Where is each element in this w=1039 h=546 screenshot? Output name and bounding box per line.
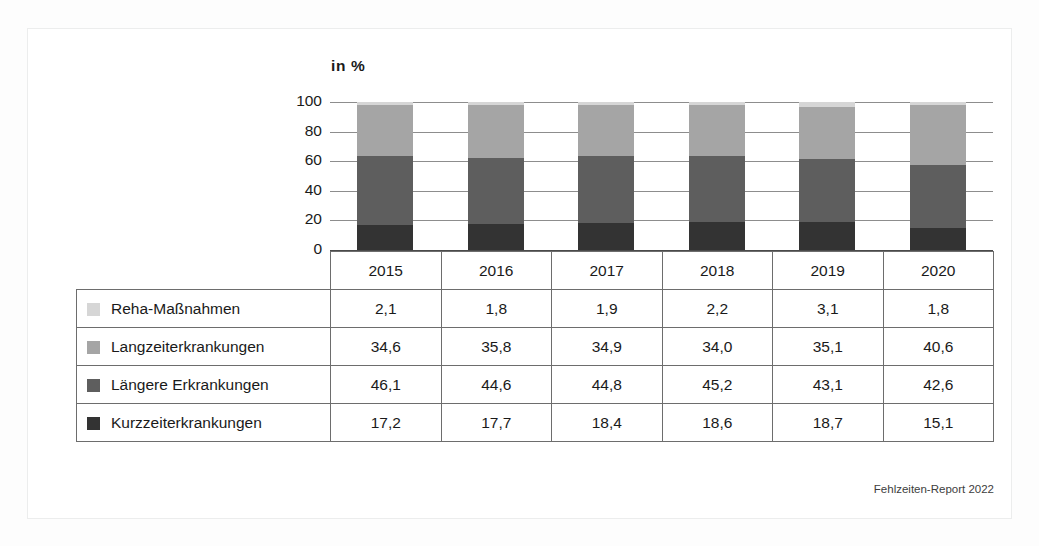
table-cell-kurzzeit-2016: 17,7 [441,404,552,442]
table-cell-langzeit-2017: 34,9 [552,328,663,366]
table-cell-laengere-2019: 43,1 [773,366,884,404]
legend-swatch-kurzzeit-icon [87,417,100,430]
gridline-100 [330,102,993,103]
legend-label-text: Längere Erkrankungen [111,376,269,393]
plot-area [330,102,993,250]
bar-segment-kurzzeit-2015 [357,225,413,250]
table-row: Langzeiterkrankungen34,635,834,934,035,1… [77,328,994,366]
table-column-header-2015: 2015 [331,252,442,290]
axis-unit-label: in % [331,57,365,75]
legend-label-text: Reha-Maßnahmen [111,300,240,317]
bar-segment-kurzzeit-2018 [689,222,745,250]
table-cell-reha-2015: 2,1 [331,290,442,328]
gridline-80 [330,132,993,133]
bar-segment-langzeit-2015 [357,105,413,156]
bar-2017 [578,102,634,250]
bar-2016 [468,102,524,250]
bar-segment-laengere-2016 [468,158,524,224]
bar-segment-laengere-2017 [578,156,634,222]
table-row: Kurzzeiterkrankungen17,217,718,418,618,7… [77,404,994,442]
figure-container: in % 100806040200 2015201620172018201920… [0,0,1039,546]
legend-swatch-reha-icon [87,303,100,316]
table-row: Reha-Maßnahmen2,11,81,92,23,11,8 [77,290,994,328]
table-cell-reha-2020: 1,8 [883,290,994,328]
table-column-header-2019: 2019 [773,252,884,290]
table-column-header-2017: 2017 [552,252,663,290]
y-tick-label-80: 80 [270,122,322,140]
y-tick-label-60: 60 [270,151,322,169]
table-cell-langzeit-2015: 34,6 [331,328,442,366]
bar-2019 [799,102,855,250]
gridline-60 [330,161,993,162]
y-tick-label-20: 20 [270,210,322,228]
source-note: Fehlzeiten-Report 2022 [874,483,994,495]
table-column-header-2018: 2018 [662,252,773,290]
data-table-wrapper: 201520162017201820192020Reha-Maßnahmen2,… [76,251,994,442]
table-header-row: 201520162017201820192020 [77,252,994,290]
table-cell-laengere-2018: 45,2 [662,366,773,404]
table-cell-langzeit-2020: 40,6 [883,328,994,366]
y-axis-tick-labels: 100806040200 [270,102,322,250]
bar-segment-kurzzeit-2016 [468,224,524,250]
legend-label-text: Langzeiterkrankungen [111,338,264,355]
table-cell-reha-2019: 3,1 [773,290,884,328]
table-cell-kurzzeit-2019: 18,7 [773,404,884,442]
bar-2015 [357,102,413,250]
table-column-header-2020: 2020 [883,252,994,290]
bar-segment-langzeit-2020 [910,105,966,165]
table-cell-reha-2016: 1,8 [441,290,552,328]
table-cell-langzeit-2016: 35,8 [441,328,552,366]
bar-segment-langzeit-2018 [689,105,745,155]
bar-2018 [689,102,745,250]
legend-swatch-laengere-icon [87,379,100,392]
bar-segment-langzeit-2019 [799,107,855,159]
legend-label-text: Kurzzeiterkrankungen [111,414,262,431]
legend-row-kurzzeit: Kurzzeiterkrankungen [77,404,331,442]
y-tick-label-40: 40 [270,181,322,199]
table-cell-kurzzeit-2015: 17,2 [331,404,442,442]
table-row: Längere Erkrankungen46,144,644,845,243,1… [77,366,994,404]
table-cell-kurzzeit-2017: 18,4 [552,404,663,442]
table-cell-langzeit-2018: 34,0 [662,328,773,366]
bar-segment-kurzzeit-2020 [910,228,966,250]
legend-row-langzeit: Langzeiterkrankungen [77,328,331,366]
bar-segment-langzeit-2017 [578,105,634,157]
data-table: 201520162017201820192020Reha-Maßnahmen2,… [76,251,994,442]
table-corner-cell [77,252,331,290]
table-cell-laengere-2015: 46,1 [331,366,442,404]
data-table-body: 201520162017201820192020Reha-Maßnahmen2,… [77,252,994,442]
bar-segment-laengere-2019 [799,159,855,223]
bar-segment-kurzzeit-2017 [578,223,634,250]
legend-row-reha: Reha-Maßnahmen [77,290,331,328]
bar-segment-langzeit-2016 [468,105,524,158]
table-cell-kurzzeit-2020: 15,1 [883,404,994,442]
gridline-20 [330,220,993,221]
table-cell-kurzzeit-2018: 18,6 [662,404,773,442]
table-cell-langzeit-2019: 35,1 [773,328,884,366]
legend-swatch-langzeit-icon [87,341,100,354]
table-cell-laengere-2020: 42,6 [883,366,994,404]
table-cell-laengere-2016: 44,6 [441,366,552,404]
y-tick-label-100: 100 [270,92,322,110]
bar-segment-laengere-2020 [910,165,966,228]
table-cell-reha-2018: 2,2 [662,290,773,328]
legend-row-laengere: Längere Erkrankungen [77,366,331,404]
bar-segment-laengere-2018 [689,156,745,223]
table-cell-reha-2017: 1,9 [552,290,663,328]
bar-segment-laengere-2015 [357,156,413,224]
gridline-40 [330,191,993,192]
table-cell-laengere-2017: 44,8 [552,366,663,404]
bar-2020 [910,102,966,250]
bar-segment-kurzzeit-2019 [799,222,855,250]
table-column-header-2016: 2016 [441,252,552,290]
